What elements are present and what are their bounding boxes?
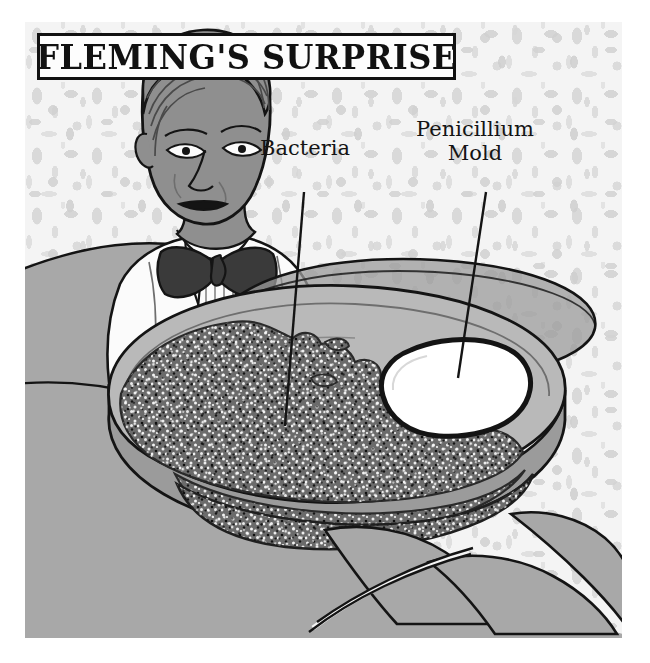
illustration-plate: FLEMING'S SURPRISE Bacteria Penicillium … [25, 22, 622, 638]
scene-artwork [25, 22, 622, 638]
label-penicillium-mold: Penicillium Mold [395, 118, 555, 165]
label-bacteria: Bacteria [235, 137, 375, 161]
illustration-canvas: FLEMING'S SURPRISE Bacteria Penicillium … [0, 0, 650, 663]
penicillium-mold-zone [381, 339, 530, 436]
page-title: FLEMING'S SURPRISE [36, 36, 456, 76]
title-plaque: FLEMING'S SURPRISE [37, 33, 456, 80]
